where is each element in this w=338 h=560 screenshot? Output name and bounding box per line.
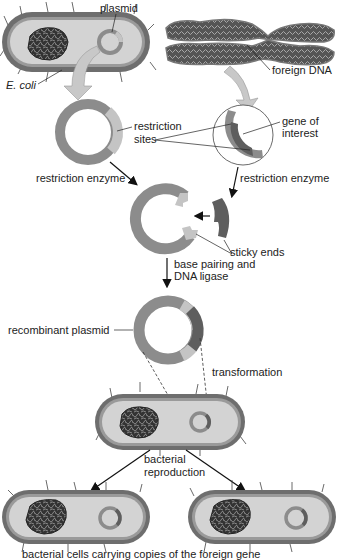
gene-of-interest-diagram bbox=[213, 105, 273, 165]
cut-plasmid bbox=[135, 189, 198, 249]
daughter-cell-right bbox=[188, 480, 336, 552]
label-ecoli: E. coli bbox=[6, 79, 36, 91]
label-recombinant-plasmid: recombinant plasmid bbox=[8, 324, 110, 336]
foreign-dna-chromosome bbox=[166, 19, 334, 64]
label-foreign-dna: foreign DNA bbox=[272, 64, 332, 76]
label-restriction-enzyme-left: restriction enzyme bbox=[36, 172, 125, 184]
label-restriction-sites-2: sites bbox=[134, 133, 157, 145]
transformed-cell bbox=[95, 382, 246, 456]
label-bacterial-reproduction-1: bacterial bbox=[144, 453, 186, 465]
label-bacterial-reproduction-2: reproduction bbox=[144, 466, 205, 478]
label-plasmid: plasmid bbox=[100, 2, 138, 14]
label-base-pairing-2: DNA ligase bbox=[174, 270, 228, 282]
label-restriction-sites-1: restriction bbox=[134, 120, 182, 132]
label-restriction-enzyme-right: restriction enzyme bbox=[240, 172, 329, 184]
label-transformation: transformation bbox=[212, 366, 282, 378]
gene-fragment bbox=[212, 198, 229, 238]
recombinant-plasmid bbox=[139, 301, 198, 359]
daughter-cell-left bbox=[2, 480, 150, 552]
plasmid-diagram bbox=[60, 104, 118, 160]
caption: bacterial cells carrying copies of the f… bbox=[22, 548, 260, 560]
label-sticky-ends: sticky ends bbox=[230, 246, 284, 258]
label-base-pairing-1: base pairing and bbox=[174, 258, 255, 270]
label-gene-of-interest-2: interest bbox=[282, 127, 318, 139]
label-gene-of-interest-1: gene of bbox=[282, 115, 319, 127]
